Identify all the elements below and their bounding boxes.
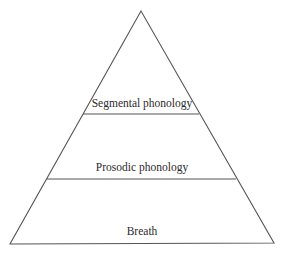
layer-label-top: Segmental phonology [92, 97, 193, 110]
pyramid-diagram: Segmental phonology Prosodic phonology B… [0, 0, 285, 253]
pyramid-outline [10, 11, 274, 244]
layer-label-bottom: Breath [127, 225, 158, 237]
layer-label-middle: Prosodic phonology [96, 161, 189, 174]
